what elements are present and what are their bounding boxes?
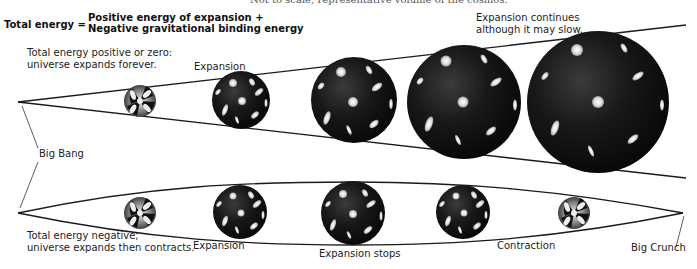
diagram-graphics (0, 0, 697, 269)
bottom-label-expansion-stops: Expansion stops (319, 248, 400, 260)
bottom-label-expansion: Expansion (193, 240, 245, 252)
bottom-sphere-2 (213, 185, 267, 239)
top-sphere-2 (212, 71, 270, 129)
top-sphere-3 (311, 57, 397, 143)
big-bang-leaders (20, 106, 38, 208)
top-sphere-4 (407, 45, 521, 159)
bottom-sphere-3 (321, 181, 385, 245)
bottom-scenario-description: Total energy negative; universe expands … (27, 230, 194, 254)
top-label-continues: Expansion continues although it may slow… (476, 12, 583, 36)
top-sphere-1 (124, 85, 156, 117)
bottom-sphere-4 (436, 185, 490, 239)
bottom-sphere-5 (558, 197, 590, 229)
top-sphere-5 (527, 31, 669, 173)
top-label-expansion: Expansion (194, 61, 246, 73)
top-scenario-description: Total energy positive or zero: universe … (27, 47, 172, 71)
big-bang-label: Big Bang (39, 148, 84, 160)
bottom-sphere-1 (124, 197, 156, 229)
bottom-label-contraction: Contraction (497, 240, 555, 252)
universe-fate-diagram: Not to scale; representative volume of t… (0, 0, 697, 269)
big-crunch-label: Big Crunch (631, 242, 686, 254)
